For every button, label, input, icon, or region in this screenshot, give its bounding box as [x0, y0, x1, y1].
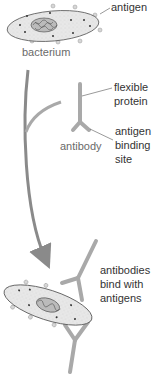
process-arrow — [25, 70, 61, 258]
label-binding-site-3: site — [115, 153, 132, 166]
label-binding-site-2: binding — [115, 139, 150, 152]
label-antigen: antigen — [111, 1, 147, 14]
label-antibody: antibody — [60, 140, 102, 153]
label-bacterium: bacterium — [22, 46, 70, 59]
label-binding-site-1: antigen — [115, 125, 151, 138]
label-bind-2: bind with — [100, 278, 143, 291]
label-bind-1: antibodies — [100, 264, 150, 277]
antigen-leader-line — [100, 8, 110, 14]
label-flexible-protein-2: protein — [114, 95, 148, 108]
label-flexible-protein-1: flexible — [114, 81, 148, 94]
binding-site-leader-line — [90, 129, 113, 140]
bacterium-top — [6, 4, 110, 45]
antibody-free — [73, 84, 89, 130]
flexible-protein-leader-line — [82, 88, 112, 96]
label-bind-3: antigens — [100, 292, 142, 305]
